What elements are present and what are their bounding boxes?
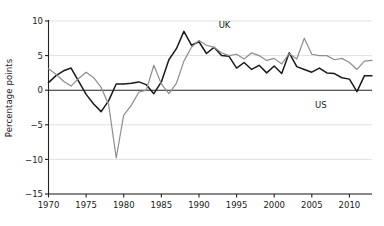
- series-line-uk: [49, 38, 373, 158]
- line-chart: Percentage points 1970197519801985199019…: [0, 0, 384, 226]
- y-tick-label: 5: [38, 51, 43, 61]
- x-axis-ticks: 197019751980198519901995200020052010: [38, 194, 361, 210]
- y-tick-label: −5: [30, 120, 43, 130]
- y-axis-ticks: 1050−5−10−15: [25, 16, 48, 199]
- x-tick-label: 1985: [151, 200, 173, 210]
- series-label-us: US: [315, 100, 327, 110]
- x-tick-label: 2010: [339, 200, 361, 210]
- data-series-group: [49, 31, 373, 158]
- x-tick-label: 2000: [263, 200, 285, 210]
- y-tick-label: 10: [32, 16, 43, 26]
- plot-area: 197019751980198519901995200020052010 105…: [0, 0, 384, 226]
- x-tick-label: 1995: [226, 200, 248, 210]
- x-tick-label: 1980: [113, 200, 135, 210]
- x-tick-label: 2005: [301, 200, 323, 210]
- series-label-uk: UK: [219, 20, 231, 30]
- y-tick-label: −15: [25, 189, 43, 199]
- x-tick-label: 1990: [188, 200, 210, 210]
- x-tick-label: 1975: [75, 200, 97, 210]
- y-tick-label: −10: [25, 155, 43, 165]
- x-tick-label: 1970: [38, 200, 60, 210]
- y-tick-label: 0: [38, 85, 43, 95]
